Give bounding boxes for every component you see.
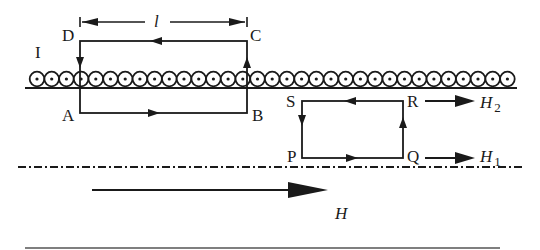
coil-center-dot [94,77,97,80]
coil-center-dot [329,77,332,80]
coil-center-dot [138,77,141,80]
h-label: H [335,205,347,222]
coil-center-dot [432,77,435,80]
corner-label-Q: Q [407,148,419,165]
coil-center-dot [403,77,406,80]
region-label-I: I [35,44,41,61]
coil-center-dot [491,77,494,80]
coil-center-dot [315,77,318,80]
corner-label-A: A [62,107,74,124]
loop-pqrs-arrows [298,97,407,162]
h2-main: H [480,93,492,112]
corner-label-D: D [62,27,74,44]
coil-center-dot [476,77,479,80]
h1-arrow [425,152,475,164]
coil-center-dot [197,77,200,80]
coil-center-dot [359,77,362,80]
coil-center-dot [374,77,377,80]
corner-label-S: S [286,93,295,110]
coil-center-dot [50,77,53,80]
diagram-canvas [0,0,540,250]
coil-center-dot [153,77,156,80]
corner-label-R: R [407,93,418,110]
current-sheet-coils [30,72,515,87]
coil-center-dot [462,77,465,80]
corner-label-C: C [250,27,261,44]
corner-label-P: P [287,148,296,165]
length-label: l [154,13,159,30]
coil-center-dot [241,77,244,80]
coil-center-dot [271,77,274,80]
coil-center-dot [109,77,112,80]
coil-center-dot [182,77,185,80]
h1-main: H [480,147,492,166]
h2-subscript: 2 [494,100,501,115]
coil-center-dot [388,77,391,80]
h-field-arrow [92,182,328,198]
h2-label: H2 [480,94,501,111]
coil-center-dot [256,77,259,80]
coil-center-dot [35,77,38,80]
coil-center-dot [65,77,68,80]
loop-pqrs [302,101,403,158]
coil-center-dot [227,77,230,80]
coil-center-dot [506,77,509,80]
coil-center-dot [418,77,421,80]
coil-center-dot [124,77,127,80]
coil-center-dot [168,77,171,80]
coil-center-dot [447,77,450,80]
h1-subscript: 1 [494,154,501,169]
coil-center-dot [344,77,347,80]
h2-arrow [425,95,475,107]
coil-center-dot [285,77,288,80]
h1-label: H1 [480,148,501,165]
coil-center-dot [300,77,303,80]
coil-center-dot [212,77,215,80]
corner-label-B: B [252,107,263,124]
length-dimension [80,17,247,27]
